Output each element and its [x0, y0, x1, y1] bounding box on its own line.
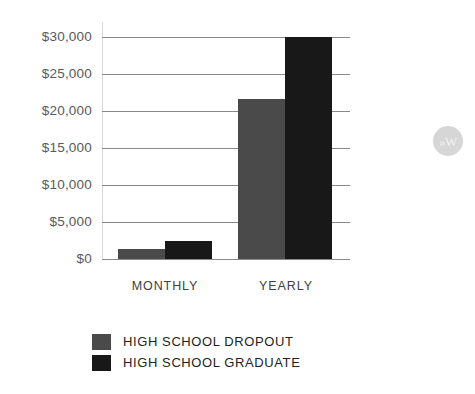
- chart-legend: HIGH SCHOOL DROPOUT HIGH SCHOOL GRADUATE: [92, 331, 300, 373]
- bar-chart: $30,000 $25,000 $20,000 $15,000 $10,000 …: [0, 0, 475, 394]
- y-axis-tick-label: $15,000: [8, 141, 92, 155]
- legend-item-dropout: HIGH SCHOOL DROPOUT: [92, 331, 300, 352]
- bar-yearly-dropout: [238, 99, 285, 259]
- y-axis-tick-label: $30,000: [8, 30, 92, 44]
- watermark-text: »W: [439, 135, 457, 148]
- y-axis-tick-label: $10,000: [8, 178, 92, 192]
- bar-yearly-graduate: [285, 37, 332, 259]
- y-axis-tick-label: $5,000: [8, 215, 92, 229]
- y-axis-tick-label: $0: [8, 252, 92, 266]
- y-axis-tick-label: $25,000: [8, 67, 92, 81]
- legend-label: HIGH SCHOOL GRADUATE: [123, 355, 300, 370]
- plot-area: [102, 37, 350, 259]
- y-axis-tick-label: $20,000: [8, 104, 92, 118]
- x-axis-baseline: [102, 259, 350, 260]
- legend-item-graduate: HIGH SCHOOL GRADUATE: [92, 352, 300, 373]
- bar-monthly-graduate: [165, 241, 212, 259]
- x-axis-tick-label-monthly: MONTHLY: [132, 279, 199, 293]
- bar-monthly-dropout: [118, 249, 165, 259]
- x-axis-tick-label-yearly: YEARLY: [259, 279, 313, 293]
- legend-swatch-icon: [92, 355, 111, 371]
- watermark-badge-icon: »W: [433, 126, 463, 156]
- legend-label: HIGH SCHOOL DROPOUT: [123, 334, 294, 349]
- legend-swatch-icon: [92, 334, 111, 350]
